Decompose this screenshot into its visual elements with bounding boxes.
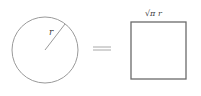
radius-label: r [49,27,54,37]
radius-line [45,24,65,50]
square-side-label: √π r [145,9,163,18]
circle-figure: r [12,17,78,83]
square-figure: √π r [131,9,186,79]
equals-sign [93,47,111,50]
circle-square-equivalence-diagram: r √π r [0,0,201,96]
square [131,22,186,79]
